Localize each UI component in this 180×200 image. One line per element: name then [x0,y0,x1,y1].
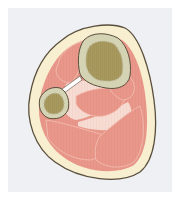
leg-cross-section [0,0,180,200]
tibia-marrow [86,41,123,81]
fibula-marrow [44,93,64,114]
